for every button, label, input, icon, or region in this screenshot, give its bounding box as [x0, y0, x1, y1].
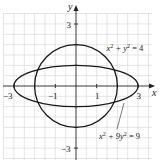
tick-label-x-neg1: −1	[48, 91, 58, 101]
ellipse-equation-label: x2 + 9y2 = 9	[98, 131, 140, 142]
chart-plot: −3 −1 1 3 3 −3 x y x2 + y2 = 4 x2 + 9y2 …	[0, 0, 160, 161]
y-axis-arrow-icon	[74, 5, 79, 11]
tick-label-y-3: 3	[67, 20, 72, 30]
tick-label-y-neg3: −3	[61, 144, 71, 154]
tick-label-x-neg3: −3	[3, 91, 13, 101]
tick-label-x-3: 3	[137, 91, 142, 101]
tick-label-x-1: 1	[95, 91, 100, 101]
x-axis-label: x	[151, 87, 157, 98]
y-axis-label: y	[67, 1, 73, 12]
circle-equation-label: x2 + y2 = 4	[106, 43, 145, 54]
